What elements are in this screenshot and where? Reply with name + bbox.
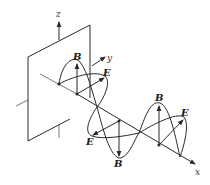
field-vectors-3: B E xyxy=(154,92,189,147)
z-axis-label: z xyxy=(55,9,61,19)
y-axis: y xyxy=(92,53,113,66)
plane-ticks xyxy=(16,100,59,138)
y-axis-label: y xyxy=(106,53,113,63)
b-label-2: B xyxy=(113,158,122,169)
e-label-1: E xyxy=(102,67,111,78)
field-vectors-2: B E xyxy=(85,119,122,169)
b-label-3: B xyxy=(154,92,163,103)
field-vectors-1: B E xyxy=(57,51,111,96)
em-wave-diagram: z y x B E B E xyxy=(0,0,210,185)
e-label-3: E xyxy=(180,107,189,118)
z-axis: z xyxy=(55,9,61,40)
electric-wave-curve xyxy=(59,74,187,157)
x-axis-label: x xyxy=(195,167,200,177)
e-label-2: E xyxy=(85,136,94,147)
b-label-1: B xyxy=(72,51,81,62)
